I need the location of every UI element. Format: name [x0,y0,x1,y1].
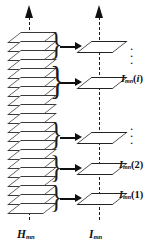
axis-label-base: H [17,228,26,240]
output-plane [76,77,127,89]
axis-label-subscript: mn [26,233,35,240]
paren-close: ) [139,73,143,84]
label-subscript: mn [123,194,131,200]
left-axis-label: Hmn [17,228,35,240]
axis-label-subscript: mn [93,233,102,240]
figure-canvas: } } } } } ... Imn(i) ... [0,0,155,248]
vertical-ellipsis-top: ... [130,42,133,63]
output-plane [76,41,127,53]
paren-close: ) [140,159,144,170]
label-subscript: mn [123,164,131,170]
right-axis-label: Imn [89,228,102,240]
vertical-ellipsis-middle: ... [130,122,133,143]
paren-close: ) [140,189,144,200]
label-subscript: mn [125,78,133,84]
label-I-mn-i: Imn(i) [121,73,143,84]
label-I-mn-2: Imn(2) [119,159,143,170]
label-I-mn-1: Imn(1) [119,189,143,200]
output-plane [76,132,127,144]
